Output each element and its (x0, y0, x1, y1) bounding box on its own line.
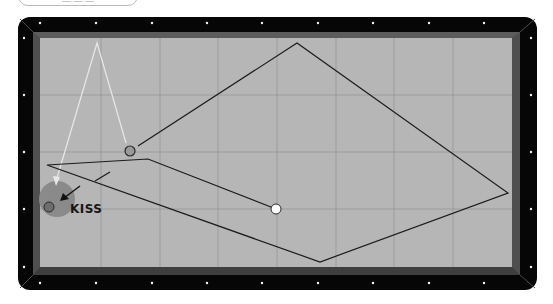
diamond-marker (372, 22, 374, 24)
cushion-bottom (33, 267, 520, 275)
diamond-marker (206, 22, 208, 24)
diamond-marker (428, 22, 430, 24)
diamond-marker (39, 22, 41, 24)
diamond-marker (206, 282, 208, 284)
diamond-marker (530, 208, 532, 210)
diamond-marker (530, 266, 532, 268)
diamond-marker (95, 22, 97, 24)
diamond-marker (317, 22, 319, 24)
diamond-marker (23, 151, 25, 153)
diamond-marker (151, 282, 153, 284)
billiard-table (0, 0, 553, 304)
kiss-label: KISS (70, 202, 103, 216)
diamond-marker (261, 282, 263, 284)
diamond-marker (261, 22, 263, 24)
diamond-marker (372, 282, 374, 284)
diamond-marker (483, 22, 485, 24)
diamond-marker (530, 94, 532, 96)
diamond-marker (39, 282, 41, 284)
diamond-marker (95, 282, 97, 284)
diamond-marker (483, 282, 485, 284)
felt (40, 38, 512, 267)
diamond-marker (23, 208, 25, 210)
diamond-marker (428, 282, 430, 284)
cushion-top (33, 32, 520, 38)
diamond-marker (530, 151, 532, 153)
kiss-ball (44, 202, 54, 212)
diamond-marker (151, 22, 153, 24)
diamond-marker (530, 37, 532, 39)
diamond-marker (23, 37, 25, 39)
diamond-marker (23, 266, 25, 268)
diamond-marker (317, 282, 319, 284)
billiard-table-svg (0, 0, 553, 304)
cue-ball (271, 204, 281, 214)
object-ball (125, 146, 135, 156)
diamond-marker (23, 94, 25, 96)
